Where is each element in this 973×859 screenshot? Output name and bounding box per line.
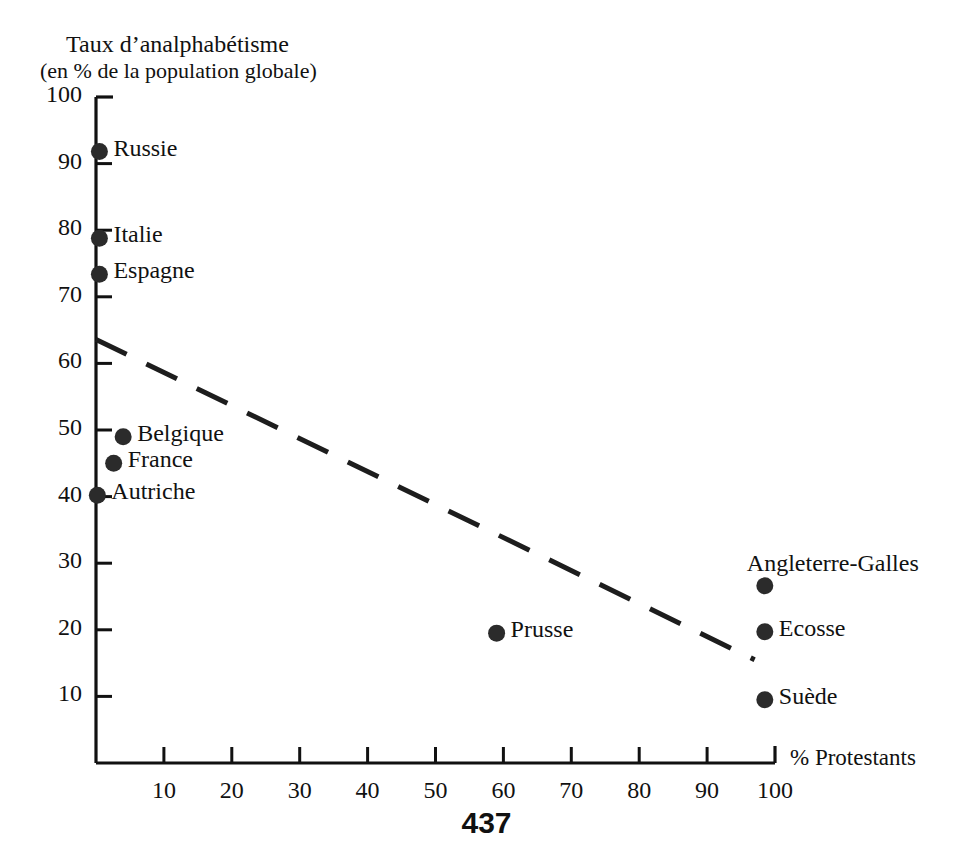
point-label-ecosse: Ecosse	[779, 615, 846, 642]
point-label-france: France	[128, 446, 193, 473]
y-tick-label-80: 80	[20, 214, 82, 241]
y-tick-label-70: 70	[20, 281, 82, 308]
data-point-espagne	[91, 266, 108, 283]
y-tick-label-50: 50	[20, 414, 82, 441]
x-axis-title: % Protestants	[790, 745, 916, 771]
point-label-su-de: Suède	[779, 683, 838, 710]
point-label-belgique: Belgique	[137, 420, 224, 447]
y-tick-label-30: 30	[20, 547, 82, 574]
point-label-angleterre-galles: Angleterre-Galles	[747, 550, 919, 577]
data-point-france	[105, 455, 122, 472]
data-point-angleterre-galles	[756, 577, 773, 594]
scatter-plot-figure: Taux d’analphabétisme (en % de la popula…	[0, 0, 973, 859]
x-tick-label-100: 100	[735, 777, 815, 804]
point-label-italie: Italie	[113, 221, 162, 248]
y-tick-label-100: 100	[20, 81, 82, 108]
data-point-italie	[91, 230, 108, 247]
point-label-espagne: Espagne	[113, 257, 194, 284]
y-axis-title-line1: Taux d’analphabétisme	[66, 30, 289, 58]
data-point-prusse	[488, 625, 505, 642]
y-tick-label-40: 40	[20, 481, 82, 508]
y-tick-label-20: 20	[20, 614, 82, 641]
y-tick-label-60: 60	[20, 347, 82, 374]
data-point-autriche	[89, 487, 106, 504]
data-point-belgique	[115, 428, 132, 445]
data-point-russie	[91, 143, 108, 160]
point-label-autriche: Autriche	[111, 478, 195, 505]
data-point-su-de	[756, 691, 773, 708]
page-number: 437	[0, 806, 973, 840]
point-label-prusse: Prusse	[511, 616, 574, 643]
point-label-russie: Russie	[113, 135, 177, 162]
y-tick-label-90: 90	[20, 148, 82, 175]
data-point-ecosse	[756, 623, 773, 640]
y-tick-label-10: 10	[20, 680, 82, 707]
